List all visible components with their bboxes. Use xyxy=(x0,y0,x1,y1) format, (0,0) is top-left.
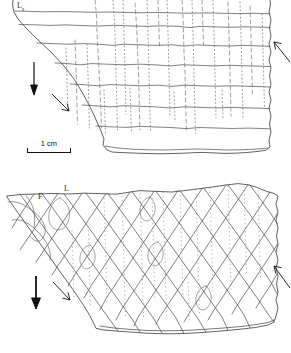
upper-specimen-panel: Ls 1 cm xyxy=(0,0,291,170)
label-Ls: Ls xyxy=(17,1,24,12)
shear-arrow-lower xyxy=(53,282,70,300)
cross-line-group-dotted xyxy=(66,0,265,134)
scale-bar-label: 1 cm xyxy=(27,139,71,148)
fabric-band-2 xyxy=(19,25,270,28)
network-dextral xyxy=(20,185,278,334)
fabric-band-1 xyxy=(15,11,270,14)
shear-arrow-upper xyxy=(52,94,69,111)
fabric-band-7 xyxy=(96,126,270,129)
right-arrow-upper xyxy=(274,42,290,62)
label-L: L xyxy=(64,184,69,195)
down-arrow-lower xyxy=(32,276,41,309)
dotted-vertical-group xyxy=(72,186,261,322)
kinematics-lower xyxy=(32,266,290,309)
fabric-band-4 xyxy=(55,63,270,67)
lower-edge-inner xyxy=(100,320,274,331)
network-sinistral xyxy=(12,185,278,326)
scale-bar: 1 cm xyxy=(27,139,71,153)
label-F: F xyxy=(38,192,42,203)
scale-bar-rule xyxy=(27,148,71,153)
down-arrow-upper xyxy=(31,62,38,95)
specimen-outline-upper xyxy=(13,0,272,154)
lower-panel-drawing xyxy=(0,170,291,353)
fabric-band-6 xyxy=(82,105,270,109)
fabric-band-3 xyxy=(37,43,270,46)
figure-canvas: Ls 1 cm xyxy=(0,0,291,353)
lower-specimen-panel: F L xyxy=(0,170,291,353)
lower-edge-inner-upper xyxy=(105,146,268,150)
kinematics-upper xyxy=(31,42,290,111)
